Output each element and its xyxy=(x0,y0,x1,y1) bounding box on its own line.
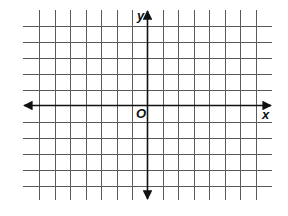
x-axis-label: x xyxy=(261,107,270,122)
origin-label: O xyxy=(136,106,146,121)
coordinate-plane: y x O xyxy=(0,0,288,216)
y-axis-label: y xyxy=(136,8,145,23)
